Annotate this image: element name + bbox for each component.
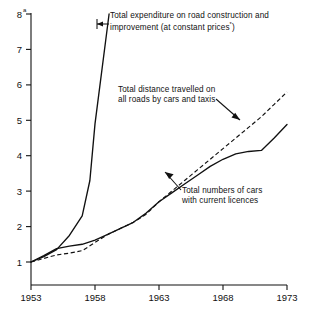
annotation-expenditure: Total expenditure on road construction a…: [110, 11, 269, 33]
y-tick-label-5: 5: [17, 115, 22, 126]
annotation-expenditure-line1: Total expenditure on road construction a…: [110, 11, 269, 20]
arrowhead-cars: [165, 172, 174, 179]
annotation-cars-line1: Total numbers of cars: [182, 186, 262, 195]
x-axis-ticks: [31, 285, 287, 290]
y-axis-ticks: [26, 14, 31, 262]
annotation-expenditure-line2: improvement (at constant prices*): [110, 23, 235, 32]
y-tick-label-4: 4: [17, 150, 22, 161]
line-chart-canvas: 8 a 7 6 5 4 3 2 1 1953 1958 1963 1968 19…: [0, 0, 312, 318]
annotation-cars: Total numbers of carswith current licenc…: [182, 186, 262, 206]
y-tick-label-7: 7: [17, 44, 22, 55]
series-line-distance-travelled: [31, 92, 287, 262]
y-axis-footnote-marker: a: [23, 7, 27, 13]
y-tick-label-1: 1: [17, 257, 22, 268]
x-axis-labels: 1953 1958 1963 1968 1973: [20, 292, 297, 303]
x-tick-label-1958: 1958: [84, 292, 105, 303]
x-tick-label-1968: 1968: [212, 292, 233, 303]
y-tick-label-3: 3: [17, 186, 22, 197]
y-tick-label-2: 2: [17, 221, 22, 232]
annotation-expenditure-line2-suffix: ): [232, 23, 235, 32]
annotation-distance-line2: all roads by cars and taxis: [118, 95, 215, 104]
x-tick-label-1973: 1973: [276, 292, 297, 303]
y-tick-label-8: 8: [17, 9, 22, 20]
x-tick-label-1963: 1963: [148, 292, 169, 303]
y-tick-label-6: 6: [17, 79, 22, 90]
annotation-cars-line2: with current licences: [182, 196, 258, 205]
annotation-distance: Total distance travelled onall roads by …: [118, 85, 215, 105]
chart-figure: 8 a 7 6 5 4 3 2 1 1953 1958 1963 1968 19…: [0, 0, 312, 318]
series-line-road-expenditure: [31, 14, 109, 262]
y-axis-labels: 8 a 7 6 5 4 3 2 1: [17, 7, 27, 268]
x-tick-label-1953: 1953: [20, 292, 41, 303]
annotation-expenditure-line2-prefix: improvement (at constant prices: [110, 23, 230, 32]
annotation-distance-line1: Total distance travelled on: [118, 85, 215, 94]
arrowhead-expenditure: [97, 21, 103, 26]
